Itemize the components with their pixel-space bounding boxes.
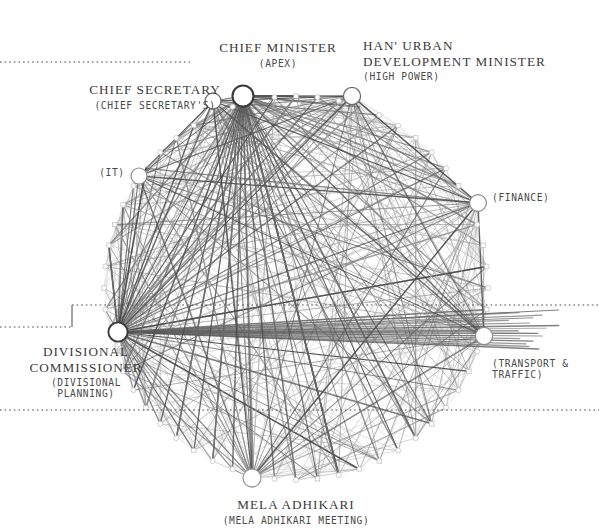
rim-node bbox=[456, 388, 461, 393]
rim-node bbox=[475, 349, 480, 354]
node-label-han-urban-development-minister: HAN' URBAN DEVELOPMENT MINISTER(HIGH POW… bbox=[363, 38, 546, 82]
rim-node bbox=[467, 369, 471, 373]
rim-node bbox=[272, 476, 277, 481]
rim-node bbox=[336, 98, 341, 103]
rim-node bbox=[294, 478, 299, 483]
rim-node bbox=[444, 166, 449, 171]
label-main: MELA ADHIKARI bbox=[0, 497, 592, 513]
label-sub: (HIGH POWER) bbox=[363, 71, 546, 82]
rim-node bbox=[430, 422, 434, 426]
label-sub: (TRANSPORT & TRAFFIC) bbox=[492, 358, 569, 381]
rim-node bbox=[377, 459, 381, 463]
label-sub: (DIVISIONAL PLANNING) bbox=[0, 377, 172, 400]
rim-node bbox=[413, 436, 418, 441]
rim-node bbox=[174, 135, 179, 140]
rim-node bbox=[113, 222, 117, 226]
rim-node bbox=[192, 123, 196, 127]
label-main: CHIEF SECRETARY bbox=[0, 82, 310, 98]
rim-node bbox=[103, 264, 108, 269]
rim-node bbox=[414, 136, 418, 140]
rim-node bbox=[429, 150, 434, 155]
label-main: DIVISIONAL COMMISSIONER bbox=[0, 344, 172, 375]
label-sub: (FINANCE) bbox=[492, 192, 549, 203]
rim-node bbox=[396, 123, 401, 128]
rim-node bbox=[456, 184, 460, 188]
hub-node-finance[interactable] bbox=[470, 195, 487, 212]
rim-node bbox=[357, 467, 362, 472]
node-label-it: (IT) bbox=[0, 165, 224, 178]
hub-node-mela-adhikari[interactable] bbox=[243, 469, 261, 487]
rim-node bbox=[131, 183, 136, 188]
node-label-finance: (FINANCE) bbox=[492, 190, 549, 203]
rim-node bbox=[315, 95, 320, 100]
rim-node bbox=[158, 150, 163, 155]
graph-edge bbox=[252, 371, 469, 478]
label-sub: (IT) bbox=[0, 167, 224, 178]
rim-node bbox=[315, 477, 319, 481]
rim-node bbox=[106, 243, 111, 248]
rim-node bbox=[192, 448, 196, 452]
graph-edge bbox=[339, 101, 478, 225]
hub-node-han-urban-development-minister[interactable] bbox=[343, 87, 360, 104]
rim-node bbox=[486, 286, 491, 291]
rim-node bbox=[396, 448, 401, 453]
rim-node bbox=[102, 286, 106, 290]
rim-node bbox=[144, 406, 148, 410]
rim-node bbox=[444, 405, 449, 410]
rim-node bbox=[158, 421, 163, 426]
rim-node bbox=[103, 307, 108, 312]
label-sub: (MELA ADHIKARI MEETING) bbox=[0, 515, 592, 526]
node-label-transport-traffic: (TRANSPORT & TRAFFIC) bbox=[492, 356, 569, 381]
label-main: HAN' URBAN DEVELOPMENT MINISTER bbox=[363, 38, 546, 69]
diagram-canvas: CHIEF MINISTER(APEX)HAN' URBAN DEVELOPME… bbox=[0, 0, 599, 532]
node-label-divisional-commissioner: DIVISIONAL COMMISSIONER(DIVISIONAL PLANN… bbox=[0, 344, 172, 400]
label-sub: (CHIEF SECRETARY'S) bbox=[0, 100, 310, 111]
rim-node bbox=[485, 307, 489, 311]
rim-node bbox=[210, 458, 215, 463]
rim-node bbox=[336, 473, 341, 478]
node-label-mela-adhikari: MELA ADHIKARI(MELA ADHIKARI MEETING) bbox=[0, 497, 592, 526]
node-label-chief-secretary: CHIEF SECRETARY(CHIEF SECRETARY'S) bbox=[0, 82, 310, 111]
rim-node bbox=[484, 264, 489, 269]
rim-node bbox=[475, 222, 480, 227]
rim-node bbox=[230, 467, 235, 472]
rim-node bbox=[481, 243, 485, 247]
rim-node bbox=[121, 202, 126, 207]
hub-node-divisional-commissioner[interactable] bbox=[108, 322, 127, 341]
rim-node bbox=[174, 436, 179, 441]
hub-node-transport-traffic[interactable] bbox=[475, 327, 492, 344]
rim-node bbox=[377, 113, 382, 118]
